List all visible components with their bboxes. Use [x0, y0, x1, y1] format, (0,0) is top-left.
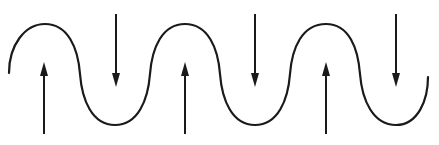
up-arrow-icon	[40, 62, 48, 134]
down-arrow-icon	[392, 14, 400, 87]
up-arrow-icon	[181, 62, 189, 134]
up-arrow-icon	[322, 62, 330, 134]
sine-wave-curve	[9, 24, 428, 125]
down-arrow-icon	[112, 14, 120, 87]
wave-diagram-svg	[0, 0, 439, 145]
wave-diagram	[0, 0, 439, 145]
down-arrow-icon	[251, 14, 259, 87]
